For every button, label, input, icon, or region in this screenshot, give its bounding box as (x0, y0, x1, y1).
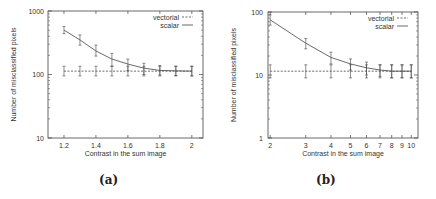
y-tick-label: 10 (36, 135, 44, 142)
caption-a: (a) (99, 173, 118, 187)
legend-label-vectorial: vectorial (153, 14, 180, 21)
x-tick-label: 9 (400, 142, 404, 149)
y-tick-label: 1 (259, 135, 263, 142)
y-tick-label: 100 (32, 71, 44, 78)
x-tick-label: 1.8 (155, 142, 165, 149)
x-tick-label: 7 (378, 142, 382, 149)
legend-label-vectorial: vectorial (368, 15, 395, 22)
x-tick-label: 1.4 (91, 142, 101, 149)
chart-b: 1101002345678910Contrast in the sum imag… (230, 9, 418, 159)
figure-canvas: 1010010001.21.41.61.82Contrast in the su… (0, 0, 436, 199)
legend: vectorialscalar (153, 14, 193, 29)
x-tick-label: 8 (390, 142, 394, 149)
y-axis-label: Number of misclassified pixels (10, 27, 18, 122)
plot-frame (48, 11, 203, 138)
legend-label-scalar: scalar (375, 23, 394, 30)
x-axis-label: Contrast in the sum image (85, 150, 167, 158)
legend: vectorialscalar (368, 15, 408, 30)
y-tick-label: 10 (255, 72, 263, 79)
x-tick-label: 6 (365, 142, 369, 149)
x-tick-label: 1.6 (123, 142, 133, 149)
x-tick-label: 4 (329, 142, 333, 149)
y-tick-label: 1000 (28, 8, 44, 15)
plot-frame (268, 12, 418, 138)
y-tick-label: 100 (251, 9, 263, 16)
x-tick-label: 3 (304, 142, 308, 149)
x-axis-label: Contrast in the sum image (302, 150, 384, 158)
x-tick-label: 1.2 (59, 142, 69, 149)
chart-a: 1010010001.21.41.61.82Contrast in the su… (10, 8, 203, 159)
x-tick-label: 2 (268, 142, 272, 149)
y-axis-label: Number of misclassified pixels (230, 27, 238, 122)
x-tick-label: 10 (407, 142, 415, 149)
x-tick-label: 5 (349, 142, 353, 149)
legend-label-scalar: scalar (160, 22, 179, 29)
series-scalar (62, 27, 193, 76)
x-tick-label: 2 (190, 142, 194, 149)
caption-b: (b) (316, 173, 336, 187)
